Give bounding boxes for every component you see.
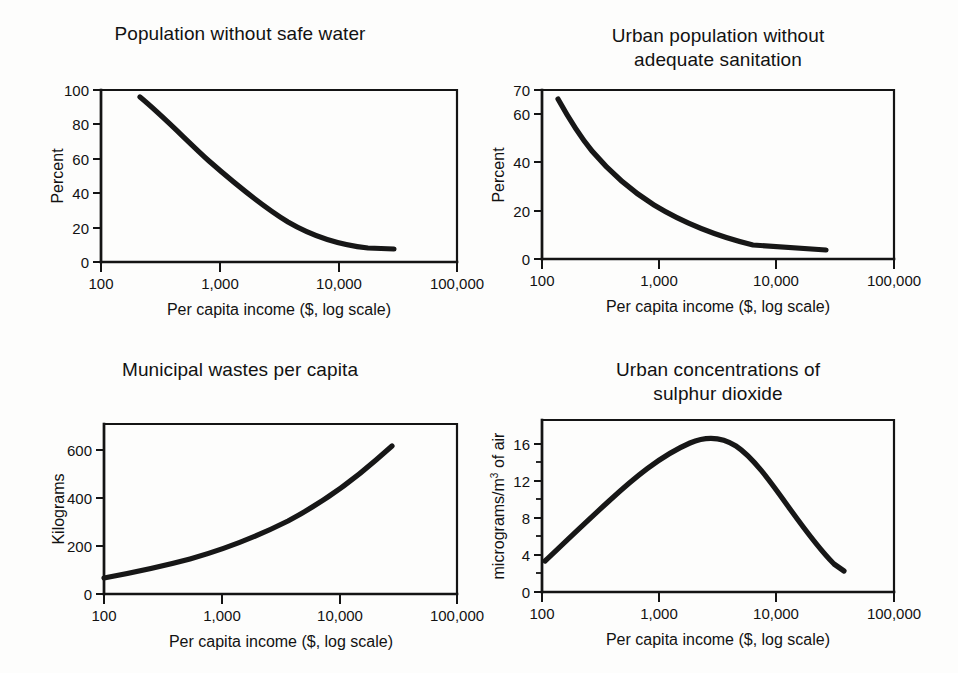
- x-tick-label: 1,000: [640, 605, 678, 622]
- x-axis-label-2: Per capita income ($, log scale): [169, 633, 393, 650]
- x-tick-label: 10,000: [753, 272, 799, 289]
- data-curve-2: [104, 446, 392, 578]
- y-tick-label: 40: [72, 185, 89, 202]
- y-tick-label: 16: [513, 436, 530, 453]
- x-tick-label: 100: [88, 275, 113, 292]
- x-tick-label: 100,000: [430, 275, 484, 292]
- x-tick-label: 100: [529, 605, 554, 622]
- y-tick-label: 100: [64, 82, 89, 99]
- y-tick-label: 0: [522, 251, 530, 268]
- y-tick-label: 12: [513, 473, 530, 490]
- y-tick-label: 400: [67, 490, 92, 507]
- x-axis-label-3: Per capita income ($, log scale): [606, 631, 830, 648]
- chart-panel-urban-concentrations-of-sulphur-dioxide: Urban concentrations of sulphur dioxide …: [478, 338, 958, 673]
- y-tick-label: 20: [72, 220, 89, 237]
- data-curve-3: [545, 438, 844, 571]
- svg-text:micrograms/m3 of air: micrograms/m3 of air: [489, 432, 507, 580]
- y-tick-label: 8: [522, 510, 530, 527]
- y-axis-label-3: micrograms/m3 of air: [489, 432, 507, 580]
- x-tick-label: 1,000: [640, 272, 678, 289]
- x-tick-label: 10,000: [316, 275, 362, 292]
- x-tick-label: 1,000: [201, 275, 239, 292]
- x-axis-label-1: Per capita income ($, log scale): [606, 298, 830, 315]
- y-tick-label: 40: [513, 154, 530, 171]
- y-tick-label: 60: [513, 106, 530, 123]
- y-tick-label: 60: [72, 151, 89, 168]
- environment-indicators-figure: Population without safe water 100 80 60 …: [0, 0, 958, 673]
- x-ticks-3: [542, 592, 894, 602]
- x-axis-label-0: Per capita income ($, log scale): [167, 301, 391, 318]
- x-ticks-2: [104, 594, 457, 604]
- x-ticks-0: [101, 262, 457, 272]
- x-tick-label: 100,000: [867, 605, 921, 622]
- y-axis-label-3-prefix: micrograms/m: [490, 478, 507, 579]
- chart-plot-3: 16 12 8 4 0 100 1,000 10,000 100,000 Per…: [478, 338, 958, 673]
- x-tick-label: 10,000: [317, 607, 363, 624]
- y-tick-label: 70: [513, 82, 530, 99]
- chart-plot-0: 100 80 60 40 20 0 100 1,000 10,000 100,0…: [0, 0, 480, 340]
- y-axis-label-3-suffix: of air: [490, 432, 507, 473]
- y-axis-label-2: Kilograms: [50, 473, 67, 544]
- chart-panel-population-without-safe-water: Population without safe water 100 80 60 …: [0, 0, 480, 340]
- data-curve-1: [558, 99, 826, 250]
- x-tick-label: 100,000: [867, 272, 921, 289]
- y-tick-label: 0: [522, 584, 530, 601]
- y-tick-label: 200: [67, 538, 92, 555]
- y-axis-label-0: Percent: [49, 148, 66, 204]
- y-tick-label: 0: [81, 254, 89, 271]
- data-curve-0: [140, 97, 394, 249]
- y-axis-label-1: Percent: [490, 147, 507, 203]
- x-tick-label: 100,000: [430, 607, 484, 624]
- x-tick-label: 1,000: [203, 607, 241, 624]
- x-tick-label: 100: [91, 607, 116, 624]
- chart-plot-2: 600 400 200 0 100 1,000 10,000 100,000 P…: [0, 338, 480, 673]
- y-tick-label: 80: [72, 116, 89, 133]
- x-tick-label: 10,000: [753, 605, 799, 622]
- y-tick-label: 600: [67, 442, 92, 459]
- chart-panel-municipal-wastes-per-capita: Municipal wastes per capita 600 400 200 …: [0, 338, 480, 673]
- y-tick-label: 0: [84, 586, 92, 603]
- plot-frame-0: [101, 90, 457, 262]
- chart-panel-urban-population-without-adequate-sanitation: Urban population without adequate sanita…: [478, 0, 958, 340]
- chart-plot-1: 70 60 40 20 0 100 1,000 10,000 100,000 P…: [478, 0, 958, 340]
- y-tick-label: 20: [513, 203, 530, 220]
- x-ticks-1: [542, 259, 894, 269]
- y-tick-label: 4: [522, 547, 530, 564]
- x-tick-label: 100: [529, 272, 554, 289]
